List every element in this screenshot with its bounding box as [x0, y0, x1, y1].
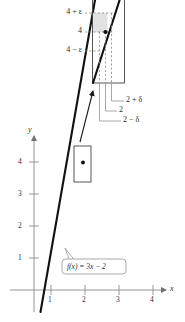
x-tick-label-4: 4 [150, 296, 154, 304]
figure-caption [0, 314, 185, 322]
label-4-center: 4 [56, 27, 82, 35]
y-tick-label-3: 3 [18, 190, 22, 198]
label-4-plus-epsilon: 4 + ε [56, 8, 82, 16]
zoom-pointer-arrow [80, 91, 93, 142]
y-axis-label: y [28, 126, 32, 134]
epsilon-shaded-region [93, 13, 108, 32]
leader-2-minus-delta [100, 83, 122, 121]
magnified-point-2-4 [103, 30, 107, 34]
delta-leader-lines [100, 83, 125, 121]
label-2-plus-delta: 2 + δ [126, 96, 142, 104]
label-4-minus-epsilon: 4 − ε [56, 46, 82, 54]
magnified-view [85, 0, 126, 83]
figure-epsilon-delta-limit: 4 + ε 4 4 − ε 2 + δ 2 2 − δ y x 1 2 3 4 … [0, 0, 185, 322]
leader-2-plus-delta [112, 83, 125, 101]
x-tick-label-2: 2 [82, 296, 86, 304]
x-axis-label: x [170, 285, 174, 293]
callout-label: f(x) = 3x − 2 [67, 263, 106, 271]
label-2-minus-delta: 2 − δ [123, 116, 139, 124]
y-tick-label-1: 1 [18, 254, 22, 262]
y-tick-label-4: 4 [18, 158, 22, 166]
plot-canvas [0, 0, 185, 322]
label-2-center: 2 [119, 106, 123, 114]
magnified-function-line [93, 0, 126, 83]
x-tick-label-1: 1 [48, 296, 52, 304]
zoom-source-box [74, 146, 91, 182]
y-tick-label-2: 2 [18, 222, 22, 230]
main-axes [10, 136, 166, 312]
x-tick-label-3: 3 [116, 296, 120, 304]
point-2-4 [81, 161, 85, 165]
